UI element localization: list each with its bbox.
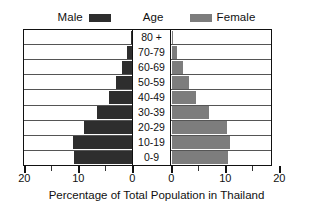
bar-male	[97, 106, 132, 119]
legend-swatch-female-icon	[190, 14, 212, 22]
bar-female	[172, 106, 210, 119]
age-label: 40-49	[132, 90, 171, 105]
bar-male	[74, 151, 132, 164]
axis-tick-label: 10	[219, 173, 231, 184]
axis-tick-minor	[51, 166, 52, 171]
axis-tick-minor	[105, 166, 106, 171]
legend-item-male: Male	[57, 12, 110, 24]
bar-female	[172, 46, 177, 59]
legend-swatch-male-icon	[89, 14, 111, 22]
age-label: 20-29	[132, 120, 171, 135]
axis-tick-label: 0	[129, 173, 135, 184]
axis-tick-minor	[198, 166, 199, 171]
age-label: 0-9	[132, 150, 171, 165]
plot-area: 80 +70-7960-6950-5940-4930-3920-2910-190…	[23, 29, 272, 166]
legend-label-male: Male	[57, 12, 82, 24]
axis-tick-label: 20	[273, 173, 285, 184]
bar-male	[73, 136, 132, 149]
age-label: 10-19	[132, 135, 171, 150]
age-label: 80 +	[132, 30, 171, 45]
bar-female	[172, 136, 230, 149]
axis-tick-minor	[252, 166, 253, 171]
bar-female	[172, 91, 196, 104]
legend-item-age: Age	[143, 12, 164, 24]
age-label-column: 80 +70-7960-6950-5940-4930-3920-2910-190…	[132, 30, 171, 165]
population-pyramid-chart: Male Age Female 80 +70-7960-6950-5940-49…	[0, 0, 313, 208]
legend-label-female: Female	[217, 12, 256, 24]
age-label: 50-59	[132, 75, 171, 90]
bar-male	[84, 121, 133, 134]
legend-item-female: Female	[190, 12, 256, 24]
x-axis-title: Percentage of Total Population in Thaila…	[0, 190, 313, 202]
bar-male	[109, 91, 132, 104]
bar-female	[172, 76, 190, 89]
axis-tick-label: 10	[72, 173, 84, 184]
age-label: 30-39	[132, 105, 171, 120]
axis-tick-label: 0	[168, 173, 174, 184]
bar-male	[116, 76, 132, 89]
bar-female	[172, 121, 227, 134]
age-label: 60-69	[132, 60, 171, 75]
bar-male	[122, 61, 133, 74]
x-axis-labels: 2010001020	[0, 173, 313, 187]
bar-female	[172, 151, 229, 164]
bar-female	[172, 31, 174, 44]
age-label: 70-79	[132, 45, 171, 60]
legend-label-age: Age	[143, 12, 164, 24]
chart-legend: Male Age Female	[0, 9, 313, 27]
axis-tick-label: 20	[18, 173, 30, 184]
bar-female	[172, 61, 184, 74]
